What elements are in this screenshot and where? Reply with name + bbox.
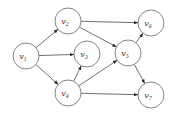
edge-v4-v7 <box>81 93 138 94</box>
node-v5: v5 <box>115 40 141 66</box>
edge-v2-v6 <box>81 21 138 22</box>
node-v7: v7 <box>138 82 164 108</box>
node-v6: v6 <box>138 10 164 36</box>
directed-graph: v1v2v3v4v5v6v7 <box>0 0 171 113</box>
edge-v5-v6 <box>136 33 143 42</box>
nodes-layer: v1v2v3v4v5v6v7 <box>13 8 164 108</box>
edge-v1-v3 <box>39 54 74 55</box>
edge-v1-v4 <box>36 65 59 85</box>
edge-v5-v7 <box>134 64 145 83</box>
node-v1: v1 <box>13 43 39 69</box>
node-v4: v4 <box>55 80 81 106</box>
node-v3: v3 <box>74 41 100 67</box>
node-v2: v2 <box>55 8 81 34</box>
edge-v4-v3 <box>74 66 82 82</box>
edge-v1-v2 <box>36 29 58 47</box>
